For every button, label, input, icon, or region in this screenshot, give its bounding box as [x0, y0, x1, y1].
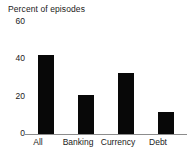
plot-area	[25, 16, 187, 134]
bar-banking	[78, 95, 94, 134]
bar-chart: Percent of episodes 60 40 20 0 All Banki…	[0, 0, 191, 158]
x-tick-label-banking: Banking	[58, 137, 98, 147]
x-tick-label-all: All	[18, 137, 58, 147]
x-axis-line	[25, 134, 187, 135]
y-tick-label-20: 20	[1, 92, 25, 101]
bar-currency	[118, 73, 134, 134]
y-tick-label-60: 60	[1, 17, 25, 26]
bar-debt	[158, 112, 174, 134]
y-axis-tick-labels: 60 40 20 0	[0, 0, 25, 158]
x-tick-label-debt: Debt	[138, 137, 178, 147]
y-tick-label-40: 40	[1, 54, 25, 63]
bar-all	[38, 55, 54, 134]
x-tick-label-currency: Currency	[98, 137, 138, 147]
